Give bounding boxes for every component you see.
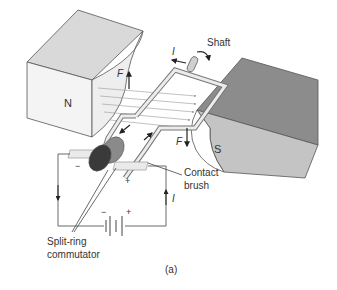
contact-brush-label-line1: Contact xyxy=(184,167,219,178)
svg-text:F: F xyxy=(176,136,183,147)
shaft-label: Shaft xyxy=(207,37,231,48)
dc-motor-diagram: N S Shaft I F F xyxy=(0,0,337,290)
south-magnet: S xyxy=(191,58,318,178)
current-label-right: I xyxy=(172,193,175,204)
battery-minus: − xyxy=(101,207,106,217)
commutator-label-line1: Split-ring xyxy=(47,236,86,247)
figure-caption: (a) xyxy=(165,264,177,275)
north-pole-label: N xyxy=(64,97,72,109)
coil-current-arrow-left xyxy=(120,125,130,133)
current-arrow-top: I xyxy=(172,46,186,63)
svg-text:I: I xyxy=(172,46,175,57)
svg-text:+: + xyxy=(125,176,130,186)
contact-brush-label-line2: brush xyxy=(184,180,209,191)
battery-plus: + xyxy=(126,207,131,217)
south-pole-label: S xyxy=(214,143,221,155)
svg-text:F: F xyxy=(117,68,124,79)
shaft: Shaft xyxy=(186,37,231,73)
svg-text:−: − xyxy=(75,161,80,171)
commutator-label-line2: commutator xyxy=(47,249,100,260)
battery: − + xyxy=(101,207,131,236)
force-arrow-right: F xyxy=(176,128,187,147)
